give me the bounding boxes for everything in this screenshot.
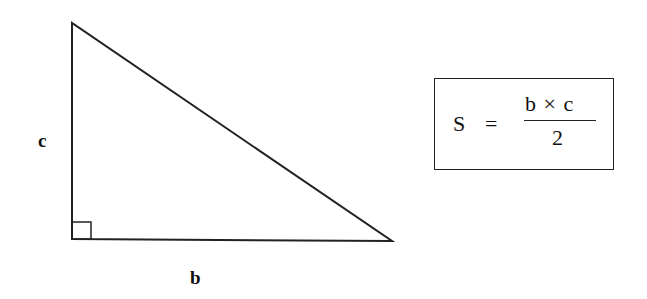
formula-numerator: b × c: [525, 93, 574, 115]
formula-area-symbol: S: [453, 113, 465, 135]
side-label-c: c: [38, 131, 46, 150]
right-angle-marker: [72, 222, 91, 239]
fraction-bar: [524, 120, 596, 121]
area-formula-box: S = b × c 2: [434, 78, 614, 170]
formula-denominator: 2: [552, 127, 563, 149]
side-label-b: b: [190, 268, 201, 287]
formula-equals-sign: =: [485, 113, 497, 135]
right-triangle: [72, 23, 392, 241]
